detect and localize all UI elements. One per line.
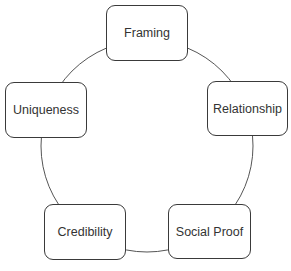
node-credibility: Credibility (44, 204, 126, 260)
node-label: Social Proof (176, 225, 243, 239)
node-relationship: Relationship (207, 81, 288, 136)
node-uniqueness: Uniqueness (5, 82, 87, 138)
node-label: Relationship (213, 102, 282, 116)
node-social-proof: Social Proof (168, 204, 251, 259)
node-label: Framing (124, 26, 170, 40)
node-framing: Framing (106, 5, 188, 61)
node-label: Uniqueness (13, 103, 79, 117)
node-label: Credibility (58, 225, 113, 239)
